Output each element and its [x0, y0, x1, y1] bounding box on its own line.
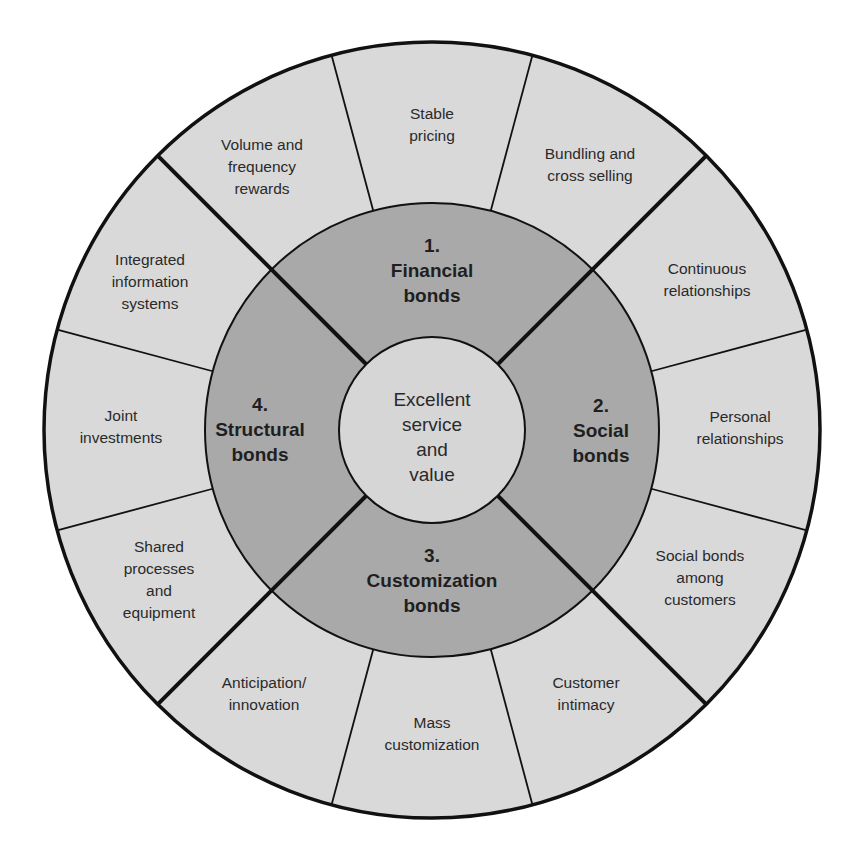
segment-continuous-relationships: Continuous relationships: [663, 258, 750, 302]
segment-shared-processes-equipment: Shared processes and equipment: [123, 536, 195, 624]
segment-joint-investments: Joint investments: [80, 405, 163, 449]
segment-stable-pricing: Stable pricing: [409, 103, 455, 147]
segment-personal-relationships: Personal relationships: [696, 406, 783, 450]
segment-mass-customization: Mass customization: [385, 712, 480, 756]
segment-social-bonds-among-customers: Social bonds among customers: [656, 545, 745, 611]
bond-customization: 3. Customization bonds: [367, 543, 498, 618]
bond-structural: 4. Structural bonds: [215, 392, 305, 467]
segment-anticipation-innovation: Anticipation/ innovation: [222, 672, 306, 716]
segment-customer-intimacy: Customer intimacy: [552, 672, 619, 716]
bond-social: 2. Social bonds: [573, 393, 630, 468]
segment-volume-frequency-rewards: Volume and frequency rewards: [221, 134, 303, 200]
segment-integrated-information-systems: Integrated information systems: [112, 249, 189, 315]
segment-bundling-cross-selling: Bundling and cross selling: [545, 143, 636, 187]
center-excellent-service-value: Excellent service and value: [393, 387, 470, 487]
bond-financial: 1. Financial bonds: [391, 233, 473, 308]
